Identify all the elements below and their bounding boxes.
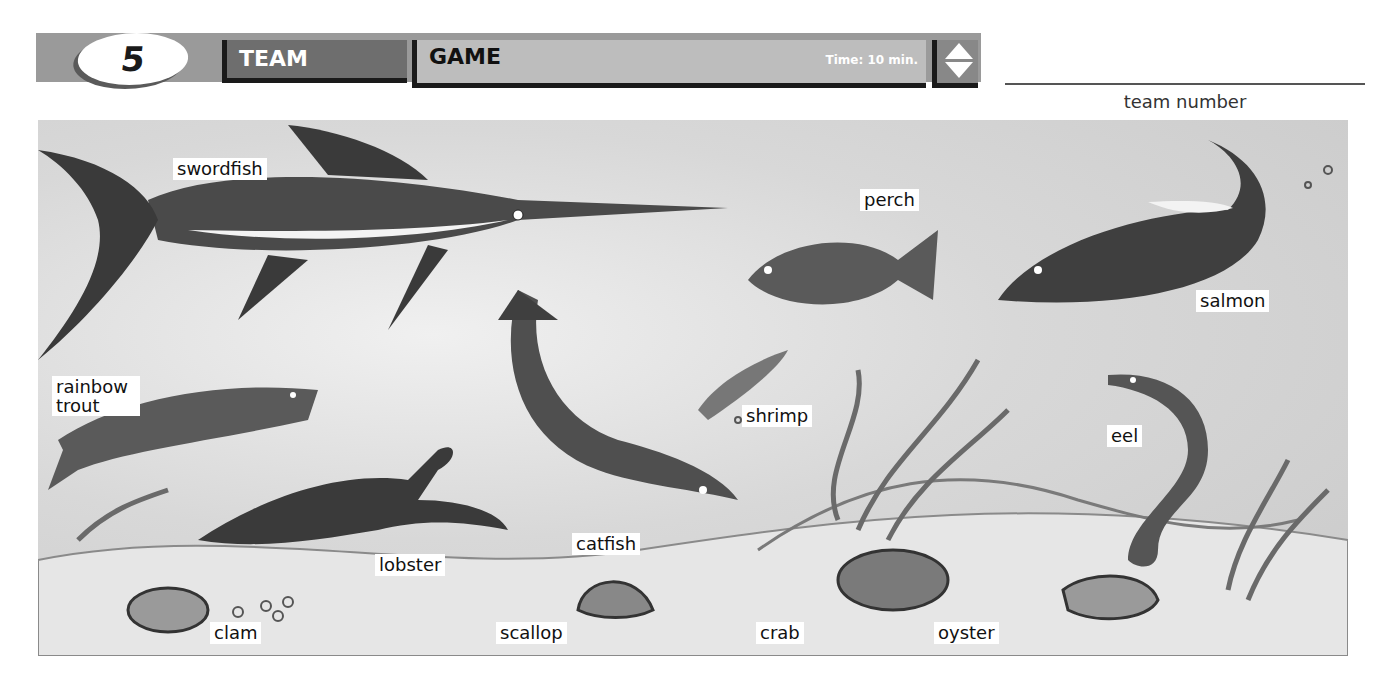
- label-clam: clam: [210, 622, 261, 644]
- arrow-up-icon: [945, 43, 973, 59]
- sea-life-illustration: swordfish perch salmon rainbow trout shr…: [38, 120, 1348, 656]
- catfish-icon: [498, 290, 738, 500]
- time-label: Time: 10 min.: [825, 53, 918, 67]
- label-shrimp: shrimp: [742, 405, 812, 427]
- oyster-icon: [1063, 576, 1158, 619]
- up-down-arrows-icon: [932, 40, 978, 88]
- team-tab-label: TEAM: [239, 46, 308, 71]
- label-catfish: catfish: [572, 533, 640, 555]
- perch-icon: [748, 230, 938, 304]
- illustration-drawing: [38, 120, 1348, 656]
- label-lobster: lobster: [375, 554, 445, 576]
- label-salmon: salmon: [1196, 290, 1269, 312]
- arrow-down-icon: [945, 62, 973, 78]
- team-number-line[interactable]: [1005, 83, 1365, 85]
- game-tab-label: GAME: [429, 44, 501, 69]
- label-scallop: scallop: [496, 622, 567, 644]
- label-swordfish: swordfish: [173, 158, 267, 180]
- label-rainbow-trout: rainbow trout: [52, 376, 140, 416]
- swordfish-icon: [38, 125, 728, 360]
- salmon-icon: [998, 140, 1266, 303]
- team-number-label: team number: [1005, 91, 1365, 112]
- label-oyster: oyster: [934, 622, 999, 644]
- lesson-number: 5: [118, 39, 147, 79]
- label-crab: crab: [756, 622, 804, 644]
- team-tab: TEAM: [222, 40, 407, 83]
- lobster-icon: [198, 447, 508, 544]
- crab-icon: [838, 550, 948, 610]
- game-tab: GAME Time: 10 min.: [412, 40, 926, 88]
- clam-icon: [128, 588, 208, 632]
- label-eel: eel: [1107, 425, 1142, 447]
- label-perch: perch: [860, 189, 919, 211]
